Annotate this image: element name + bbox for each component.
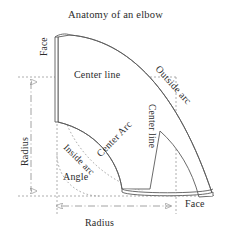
elbow-anatomy-diagram: Anatomy of an elbow Face Radius Center l… xyxy=(0,0,231,235)
label-radius-bottom: Radius xyxy=(85,218,114,228)
label-angle: Angle xyxy=(63,172,88,182)
face-top-edge xyxy=(55,37,58,122)
label-radius-vertical: Radius xyxy=(20,137,30,166)
label-face-bottom: Face xyxy=(185,199,205,209)
label-face-top: Face xyxy=(40,37,50,56)
label-center-line-vertical: Center line xyxy=(147,104,157,148)
label-center-line-horizontal: Center line xyxy=(74,70,120,80)
page-title: Anatomy of an elbow xyxy=(0,10,231,21)
